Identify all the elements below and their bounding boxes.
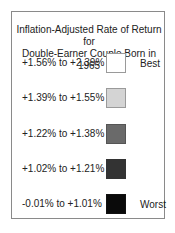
legend-swatch [106,124,126,144]
legend-range-label: -0.01% to +1.01% [22,198,102,210]
legend-row-2: +1.39% to +1.55% [12,88,166,110]
legend-title-line-1: Inflation-Adjusted Rate of Return for [12,24,166,48]
legend-range-label: +1.22% to +1.38% [22,128,104,140]
legend-range-label: +1.56% to +2.39% [22,57,104,69]
legend-swatch [106,194,126,214]
legend-swatch [106,159,126,179]
legend-box: Inflation-Adjusted Rate of Return for Do… [11,11,165,219]
legend-note-best: Best [140,58,160,70]
legend-note-worst: Worst [140,199,166,211]
legend-row-worst: -0.01% to +1.01% Worst [12,194,166,216]
legend-row-best: +1.56% to +2.39% Best [12,53,166,75]
legend-row-4: +1.02% to +1.21% [12,159,166,181]
legend-range-label: +1.02% to +1.21% [22,163,104,175]
legend-range-label: +1.39% to +1.55% [22,92,104,104]
legend-row-3: +1.22% to +1.38% [12,124,166,146]
legend-swatch [106,88,126,108]
legend-swatch [106,53,126,73]
